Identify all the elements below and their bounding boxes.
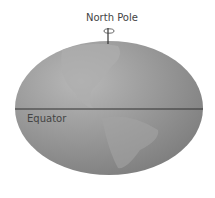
rotation-arrow-icon: [104, 29, 114, 33]
equator-label: Equator: [27, 113, 66, 124]
globe-diagram: [0, 0, 215, 198]
north-pole-label: North Pole: [86, 12, 138, 23]
